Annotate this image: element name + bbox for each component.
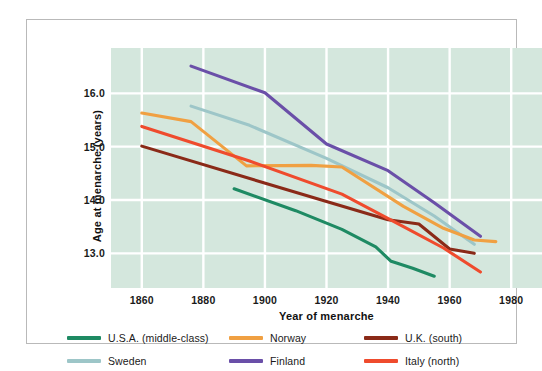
legend-color-swatch	[364, 359, 398, 363]
legend-color-swatch	[229, 336, 263, 340]
legend-item-label: Norway	[270, 332, 306, 344]
series-line	[191, 66, 480, 236]
y-tick-label: 15.0	[84, 141, 105, 153]
y-tick-label: 13.0	[84, 247, 105, 259]
legend-item-label: Italy (north)	[405, 355, 459, 367]
chart-frame: Age at menarche (years) 16.015.014.013.0…	[26, 19, 517, 344]
data-series-lines	[111, 48, 542, 288]
legend-item-label: Sweden	[108, 355, 147, 367]
y-axis-tick-labels: 16.015.014.013.0	[61, 20, 105, 371]
x-tick-label: 1920	[314, 294, 338, 306]
x-axis-label: Year of menarche	[111, 310, 542, 322]
legend-item[interactable]: U.K. (south)	[364, 332, 514, 344]
y-tick-label: 16.0	[84, 87, 105, 99]
legend-item[interactable]: Sweden	[67, 355, 229, 367]
legend-item[interactable]: U.S.A. (middle-class)	[67, 332, 229, 344]
legend-color-swatch	[67, 336, 101, 340]
x-tick-label: 1980	[499, 294, 523, 306]
legend-item[interactable]: Italy (north)	[364, 355, 514, 367]
series-line	[234, 189, 434, 276]
x-tick-label: 1960	[438, 294, 462, 306]
legend-item-label: U.S.A. (middle-class)	[108, 332, 209, 344]
legend-item-label: U.K. (south)	[405, 332, 462, 344]
y-tick-label: 14.0	[84, 194, 105, 206]
legend-item-label: Finland	[270, 355, 305, 367]
plot-area	[111, 48, 542, 288]
chart-legend: U.S.A. (middle-class)NorwayU.K. (south)S…	[67, 326, 527, 371]
legend-item[interactable]: Norway	[229, 332, 364, 344]
x-tick-label: 1880	[191, 294, 215, 306]
legend-item[interactable]: Finland	[229, 355, 364, 367]
x-tick-label: 1900	[253, 294, 277, 306]
x-tick-label: 1940	[376, 294, 400, 306]
legend-color-swatch	[364, 336, 398, 340]
legend-color-swatch	[229, 359, 263, 363]
x-tick-label: 1860	[130, 294, 154, 306]
legend-color-swatch	[67, 359, 101, 363]
